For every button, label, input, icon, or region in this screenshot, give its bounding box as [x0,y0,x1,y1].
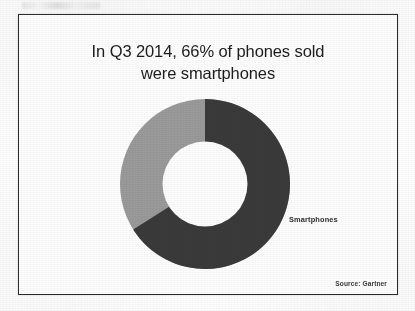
donut-slice-other-phones[interactable] [120,99,290,269]
scan-artifact [22,2,100,9]
series-label-smartphones: Smartphones [289,215,338,224]
page-title: In Q3 2014, 66% of phones sold were smar… [31,41,385,85]
slide-screenshot: In Q3 2014, 66% of phones sold were smar… [0,0,415,311]
source-attribution: Source: Gartner [335,280,387,287]
donut-hole [163,142,248,227]
slide-frame: In Q3 2014, 66% of phones sold were smar… [18,14,398,295]
donut-slice-smartphones[interactable] [133,99,290,269]
